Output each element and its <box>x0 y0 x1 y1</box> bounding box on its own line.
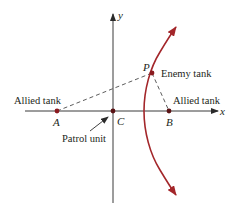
point-B <box>167 109 172 114</box>
patrol-unit-pointer-arrow <box>90 117 108 131</box>
caption-allied-tank-B: Allied tank <box>173 95 221 106</box>
point-A <box>55 109 60 114</box>
x-axis-label: x <box>219 105 225 117</box>
point-P-label: P <box>142 61 150 73</box>
point-P <box>150 71 155 76</box>
point-C-label: C <box>117 115 125 127</box>
caption-allied-tank-A: Allied tank <box>14 95 62 106</box>
hyperbola-diagram: x y A C B P Enemy tank Allied tank Allie… <box>0 0 230 214</box>
point-A-label: A <box>52 116 60 128</box>
caption-patrol-unit: Patrol unit <box>62 133 106 144</box>
point-B-label: B <box>166 116 173 128</box>
dashed-line-A-to-P <box>57 73 152 111</box>
y-axis-label: y <box>117 9 123 21</box>
caption-enemy-tank: Enemy tank <box>161 68 212 79</box>
point-C <box>111 109 116 114</box>
